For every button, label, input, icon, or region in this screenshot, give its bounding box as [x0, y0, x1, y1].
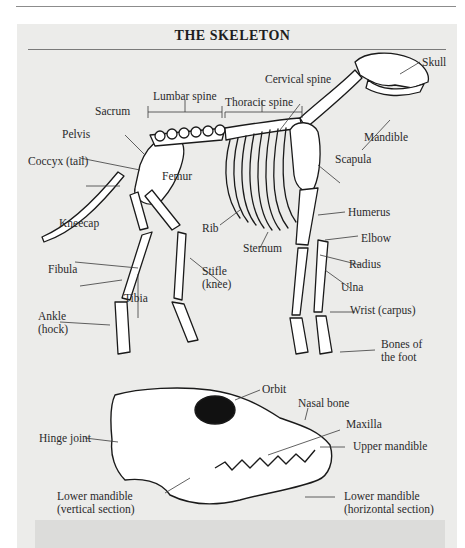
label-lower-mandible-vertical: Lower mandible(vertical section) — [57, 490, 135, 516]
label-rib: Rib — [202, 222, 219, 235]
label-ankle-line1: Ankle — [38, 310, 66, 322]
forefoot-2 — [316, 316, 332, 354]
label-mandible: Mandible — [364, 131, 408, 144]
label-sternum: Sternum — [243, 242, 282, 255]
label-lmh-line1: Lower mandible — [344, 490, 420, 502]
label-cervical-spine: Cervical spine — [265, 73, 331, 86]
label-wrist: Wrist (carpus) — [350, 304, 416, 317]
orbit-socket — [195, 396, 235, 424]
dog-skull — [355, 53, 428, 88]
tail-bone — [42, 172, 124, 242]
label-upper-mandible: Upper mandible — [353, 440, 427, 453]
label-lmv-line2: (vertical section) — [57, 503, 135, 515]
label-femur: Femur — [162, 170, 192, 183]
label-foot-line2: the foot — [381, 351, 416, 363]
label-lower-mandible-horizontal: Lower mandible(horizontal section) — [344, 490, 434, 516]
label-maxilla: Maxilla — [346, 418, 382, 431]
footer-band — [35, 520, 445, 548]
humerus-bone — [296, 188, 318, 245]
label-hinge-joint: Hinge joint — [39, 432, 91, 445]
label-ulna: Ulna — [341, 281, 363, 294]
label-stifle-line2: (knee) — [202, 278, 231, 290]
label-ankle: Ankle(hock) — [38, 310, 68, 336]
label-stifle: Stifle(knee) — [202, 265, 231, 291]
label-orbit: Orbit — [262, 383, 286, 396]
label-scapula: Scapula — [335, 153, 371, 166]
hind-metatarsals-2 — [172, 302, 198, 342]
ribcage — [226, 128, 296, 230]
forefoot — [290, 318, 308, 354]
label-stifle-line1: Stifle — [202, 265, 227, 277]
label-foot-line1: Bones of — [381, 338, 422, 350]
label-nasal-bone: Nasal bone — [298, 397, 349, 410]
label-pelvis: Pelvis — [62, 128, 90, 141]
label-radius: Radius — [349, 258, 381, 271]
tibia-bone — [122, 232, 152, 300]
scapula-bone — [290, 123, 320, 191]
label-kneecap: Kneecap — [59, 217, 99, 230]
radius-bone — [292, 248, 308, 315]
label-coccyx: Coccyx (tail) — [28, 155, 88, 168]
label-lmv-line1: Lower mandible — [57, 490, 133, 502]
label-humerus: Humerus — [348, 206, 390, 219]
label-lmh-line2: (horizontal section) — [344, 503, 434, 515]
label-skull: Skull — [422, 56, 446, 69]
label-fibula: Fibula — [48, 263, 77, 276]
label-sacrum: Sacrum — [95, 105, 130, 118]
label-ankle-line2: (hock) — [38, 323, 68, 335]
label-lumbar-spine: Lumbar spine — [153, 90, 217, 103]
ulna-bone — [314, 240, 328, 312]
label-tibia: Tibia — [124, 292, 148, 305]
metatarsals — [115, 302, 130, 354]
label-bones-of-foot: Bones ofthe foot — [381, 338, 422, 364]
hind-tibia-2 — [174, 232, 186, 300]
label-elbow: Elbow — [361, 232, 391, 245]
label-thoracic-spine: Thoracic spine — [225, 96, 293, 109]
